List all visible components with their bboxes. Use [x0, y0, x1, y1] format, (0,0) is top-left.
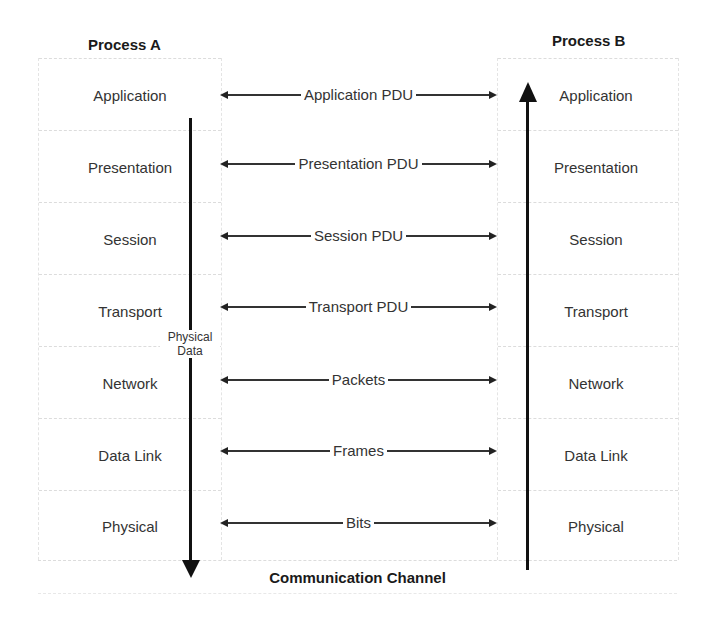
channel-label: Communication Channel — [269, 569, 446, 586]
layer-label: Transport — [98, 303, 162, 320]
pdu-arrow-presentation: Presentation PDU — [220, 157, 497, 171]
process-b-title: Process B — [552, 32, 625, 49]
arrow-right-icon — [489, 232, 497, 240]
up-flow-line — [526, 100, 529, 570]
layer-label: Physical — [568, 518, 624, 535]
physical-data-line-1: Physical — [160, 330, 220, 344]
pdu-arrow-session: Session PDU — [220, 229, 497, 243]
process-a-title: Process A — [88, 36, 161, 53]
pdu-arrow-data-link: Frames — [220, 444, 497, 458]
arrow-down-icon — [181, 560, 201, 578]
layer-label: Application — [93, 87, 166, 104]
layer-label: Transport — [564, 303, 628, 320]
arrow-left-icon — [220, 91, 228, 99]
arrow-right-icon — [489, 160, 497, 168]
pdu-label: Transport PDU — [306, 300, 411, 314]
layer-label: Session — [103, 231, 156, 248]
arrow-right-icon — [489, 91, 497, 99]
layer-label: Network — [568, 375, 623, 392]
layer-a-session: Session — [39, 202, 221, 275]
layer-label: Network — [102, 375, 157, 392]
layer-label: Data Link — [564, 447, 627, 464]
layer-label: Data Link — [98, 447, 161, 464]
layer-b-data-link: Data Link — [498, 418, 678, 491]
layer-label: Application — [559, 87, 632, 104]
arrow-right-icon — [489, 519, 497, 527]
pdu-arrow-application: Application PDU — [220, 88, 497, 102]
arrow-left-icon — [220, 232, 228, 240]
pdu-arrow-network: Packets — [220, 373, 497, 387]
physical-data-line-2: Data — [160, 344, 220, 358]
layer-b-transport: Transport — [498, 274, 678, 347]
arrow-right-icon — [489, 447, 497, 455]
layer-b-session: Session — [498, 202, 678, 275]
pdu-label: Packets — [329, 373, 388, 387]
pdu-arrow-physical: Bits — [220, 516, 497, 530]
pdu-label: Session PDU — [311, 229, 406, 243]
arrow-left-icon — [220, 376, 228, 384]
layer-label: Presentation — [88, 159, 172, 176]
arrow-left-icon — [220, 447, 228, 455]
physical-data-label: Physical Data — [160, 330, 220, 358]
layer-a-presentation: Presentation — [39, 130, 221, 203]
pdu-label: Bits — [343, 516, 374, 530]
layer-b-network: Network — [498, 346, 678, 419]
layer-label: Physical — [102, 518, 158, 535]
pdu-label: Frames — [330, 444, 387, 458]
arrow-right-icon — [489, 376, 497, 384]
arrow-left-icon — [220, 519, 228, 527]
pdu-label: Presentation PDU — [295, 157, 421, 171]
layer-a-application: Application — [39, 58, 221, 131]
arrow-up-icon — [519, 82, 537, 102]
layer-a-data-link: Data Link — [39, 418, 221, 491]
process-b-stack: Application Presentation Session Transpo… — [497, 58, 679, 560]
pdu-label: Application PDU — [301, 88, 416, 102]
layer-label: Session — [569, 231, 622, 248]
layer-a-physical: Physical — [39, 490, 221, 561]
layer-label: Presentation — [554, 159, 638, 176]
pdu-arrow-transport: Transport PDU — [220, 300, 497, 314]
communication-channel: Communication Channel — [38, 560, 677, 594]
arrow-right-icon — [489, 303, 497, 311]
arrow-left-icon — [220, 160, 228, 168]
arrow-left-icon — [220, 303, 228, 311]
layer-b-presentation: Presentation — [498, 130, 678, 203]
layer-b-physical: Physical — [498, 490, 678, 561]
process-a-stack: Application Presentation Session Transpo… — [38, 58, 222, 560]
